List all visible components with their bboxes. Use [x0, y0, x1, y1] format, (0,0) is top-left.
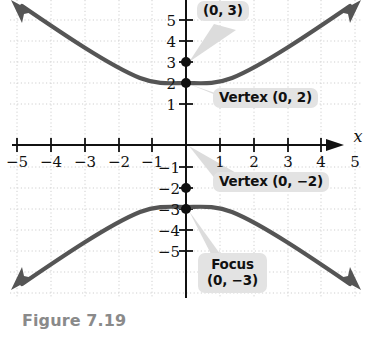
y-tick-label: 4 [166, 33, 176, 51]
x-tick-label: −1 [141, 153, 163, 171]
callout-focus-lower: Focus (0, −3) [198, 253, 267, 293]
x-tick-label: 2 [249, 153, 259, 171]
x-tick-label: 1 [215, 153, 225, 171]
y-tick-label: 1 [166, 96, 176, 114]
x-tick-label: 5 [350, 153, 360, 171]
y-tick-labels: 5 4 3 2 1 −1 −2 −3 −4 −5 [158, 12, 180, 261]
callout-vertex-lower: Vertex (0, −2) [213, 172, 329, 192]
y-tick-label: −5 [158, 243, 180, 261]
y-tick-label: 5 [166, 12, 176, 30]
x-tick-labels: −5 −4 −3 −2 −1 1 2 3 4 5 [6, 153, 360, 171]
figure-caption: Figure 7.19 [22, 311, 126, 330]
y-tick-label: 2 [166, 75, 176, 93]
x-tick-label: −2 [108, 153, 130, 171]
x-axis-arrow-icon [326, 139, 344, 151]
y-tick-label: −2 [158, 180, 180, 198]
callout-vertex-upper: Vertex (0, 2) [213, 88, 318, 108]
callout-focus-line1: Focus [207, 256, 258, 272]
x-tick-label: −3 [74, 153, 96, 171]
x-tick-label: 3 [283, 153, 293, 171]
callout-focus-upper: (0, 3) [197, 1, 249, 21]
y-tick-label: −3 [158, 201, 180, 219]
x-axis-label: x [353, 127, 362, 146]
x-tick-label: −5 [6, 153, 28, 171]
x-tick-label: −4 [40, 153, 62, 171]
hyperbola-graph: 5 4 3 2 1 −1 −2 −3 −4 −5 −5 −4 −3 −2 −1 … [0, 0, 382, 341]
x-axis [12, 138, 344, 152]
focus-upper-point [181, 57, 191, 67]
vertex-upper-point [181, 78, 191, 88]
arrow-lower-left-icon [11, 267, 33, 290]
callout-pointers [189, 24, 238, 262]
y-axis [179, 0, 193, 298]
arrow-lower-right-icon [339, 267, 361, 290]
vertex-lower-point [181, 183, 191, 193]
x-tick-label: 4 [316, 153, 326, 171]
callout-focus-line2: (0, −3) [207, 272, 258, 288]
y-tick-label: −4 [158, 222, 180, 240]
figure-container: 5 4 3 2 1 −1 −2 −3 −4 −5 −5 −4 −3 −2 −1 … [0, 0, 382, 341]
y-tick-label: 3 [166, 54, 176, 72]
focus-lower-point [181, 204, 191, 214]
